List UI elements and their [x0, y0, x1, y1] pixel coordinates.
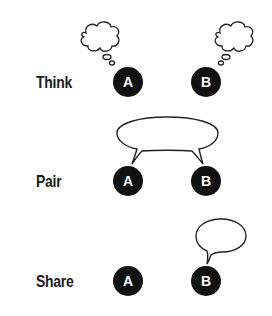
- svg-text:A: A: [123, 74, 133, 90]
- think-pair-share-diagram: A B A B A B: [0, 0, 272, 316]
- node-a-think: A: [113, 67, 143, 97]
- svg-text:B: B: [201, 74, 211, 90]
- thought-cloud-b-icon: [215, 22, 253, 65]
- node-b-share: B: [191, 266, 221, 296]
- node-a-share: A: [113, 266, 143, 296]
- thought-cloud-a-icon: [81, 22, 119, 65]
- svg-text:A: A: [123, 173, 133, 189]
- node-b-pair: B: [191, 166, 221, 196]
- svg-text:B: B: [201, 273, 211, 289]
- node-b-think: B: [191, 67, 221, 97]
- svg-text:B: B: [201, 173, 211, 189]
- shared-speech-bubble-icon: [117, 117, 218, 164]
- svg-text:A: A: [123, 273, 133, 289]
- speech-bubble-b-icon: [196, 219, 246, 264]
- node-a-pair: A: [113, 166, 143, 196]
